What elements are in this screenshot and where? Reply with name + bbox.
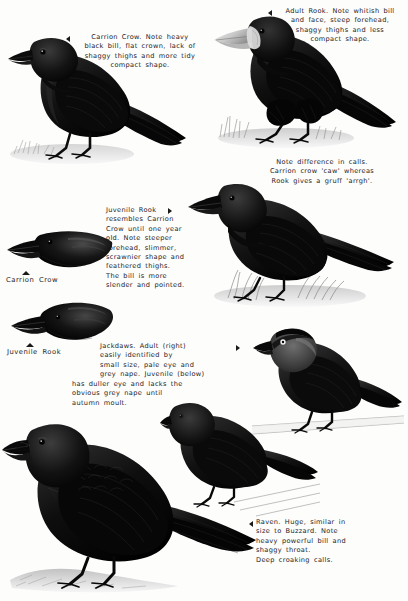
juvenile-rook-pointer-icon bbox=[168, 208, 172, 214]
raven-pointer-icon bbox=[249, 521, 253, 527]
jackdaws-caption-indented: Jackdaws. Adult (right) easily identifie… bbox=[100, 342, 238, 380]
adult-rook-caption: Adult Rook. Note whitish bill and face, … bbox=[274, 7, 406, 45]
carrion-crow-pointer-icon bbox=[66, 36, 70, 42]
raven-full-body-illustration bbox=[2, 408, 264, 600]
juvenile-rook-head-pointer-icon bbox=[26, 343, 34, 347]
carrion-crow-head-label: Carrion Crow bbox=[6, 276, 58, 284]
juvenile-rook-head-profile-illustration bbox=[10, 300, 120, 344]
carrion-crow-head-pointer-icon bbox=[22, 271, 30, 275]
adult-rook-pointer-icon bbox=[268, 10, 272, 16]
carrion-crow-head-profile-illustration bbox=[6, 228, 116, 272]
field-guide-plate: Carrion Crow. Note heavy black bill, fla… bbox=[0, 0, 408, 601]
juvenile-rook-full-body-illustration bbox=[186, 178, 406, 318]
jackdaws-pointer-icon bbox=[236, 345, 240, 351]
juvenile-rook-caption: Juvenile Rook resembles Carrion Crow unt… bbox=[106, 206, 208, 291]
juvenile-rook-head-label: Juvenile Rook bbox=[7, 348, 61, 356]
carrion-crow-caption: Carrion Crow. Note heavy black bill, fla… bbox=[72, 33, 208, 71]
raven-caption: Raven. Huge, similar in size to Buzzard.… bbox=[256, 518, 406, 565]
